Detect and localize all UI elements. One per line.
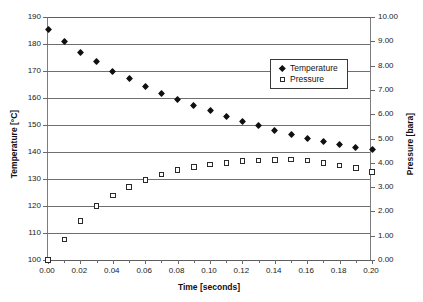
legend-label-temperature: Temperature	[290, 63, 338, 74]
legend-label-pressure: Pressure	[290, 74, 324, 85]
y-tick-label-left: 160	[13, 93, 41, 102]
x-tick-minor	[291, 260, 292, 263]
data-point-pressure	[240, 158, 245, 163]
data-point-pressure	[45, 257, 50, 262]
y-tick-left	[43, 44, 48, 45]
y-tick-label-left: 190	[13, 12, 41, 21]
y-tick-label-left: 140	[13, 147, 41, 156]
x-tick-major	[178, 260, 179, 264]
x-tick-label: 0.18	[324, 266, 354, 275]
x-tick-label: 0.20	[356, 266, 386, 275]
x-tick-minor	[194, 260, 195, 263]
y-tick-right	[370, 163, 375, 164]
x-tick-minor	[226, 260, 227, 263]
data-point-temperature	[255, 122, 262, 129]
y-tick-left	[43, 233, 48, 234]
y-tick-label-left: 180	[13, 39, 41, 48]
y-tick-right	[370, 114, 375, 115]
y-tick-label-right: 8.00	[378, 61, 408, 70]
y-tick-label-right: 9.00	[378, 36, 408, 45]
data-point-temperature	[320, 138, 327, 145]
data-point-pressure	[126, 184, 131, 189]
x-tick-label: 0.14	[259, 266, 289, 275]
x-tick-major	[340, 260, 341, 264]
y-tick-label-left: 130	[13, 174, 41, 183]
y-tick-right	[370, 66, 375, 67]
x-tick-minor	[356, 260, 357, 263]
y-tick-right	[370, 41, 375, 42]
y-tick-label-right: 0.00	[378, 255, 408, 264]
legend-item-temperature: Temperature	[277, 63, 338, 74]
x-tick-major	[113, 260, 114, 264]
x-tick-label: 0.04	[97, 266, 127, 275]
data-point-temperature	[77, 49, 84, 56]
gridline	[48, 179, 370, 180]
y-tick-label-right: 6.00	[378, 109, 408, 118]
y-tick-left	[43, 206, 48, 207]
data-point-pressure	[207, 162, 212, 167]
data-point-temperature	[109, 67, 116, 74]
x-tick-minor	[161, 260, 162, 263]
gridline	[48, 125, 370, 126]
x-tick-minor	[259, 260, 260, 263]
data-point-temperature	[271, 127, 278, 134]
x-tick-label: 0.00	[32, 266, 62, 275]
y-tick-label-right: 5.00	[378, 134, 408, 143]
y-tick-label-left: 100	[13, 255, 41, 264]
y-tick-right	[370, 17, 375, 18]
y-tick-left	[43, 179, 48, 180]
x-tick-label: 0.06	[129, 266, 159, 275]
data-point-temperature	[174, 96, 181, 103]
y-tick-right	[370, 211, 375, 212]
y-tick-right	[370, 90, 375, 91]
data-point-temperature	[206, 107, 213, 114]
y-tick-label-right: 10.00	[378, 12, 408, 21]
data-point-pressure	[272, 157, 277, 162]
x-axis-title: Time [seconds]	[47, 282, 371, 292]
x-tick-major	[210, 260, 211, 264]
data-point-temperature	[93, 58, 100, 65]
data-point-pressure	[321, 160, 326, 165]
data-point-temperature	[352, 144, 359, 151]
x-tick-major	[80, 260, 81, 264]
x-tick-minor	[129, 260, 130, 263]
x-tick-label: 0.16	[291, 266, 321, 275]
data-point-pressure	[288, 157, 293, 162]
gridline	[48, 233, 370, 234]
chart-legend: Temperature Pressure	[270, 59, 348, 89]
plot-area: Temperature Pressure	[47, 17, 371, 260]
x-tick-major	[275, 260, 276, 264]
gridline	[48, 152, 370, 153]
gridline	[48, 44, 370, 45]
x-tick-minor	[323, 260, 324, 263]
x-tick-label: 0.12	[226, 266, 256, 275]
y-tick-label-right: 7.00	[378, 85, 408, 94]
gridline	[48, 17, 370, 18]
data-point-temperature	[44, 26, 51, 33]
y-tick-label-right: 4.00	[378, 158, 408, 167]
y-tick-label-right: 3.00	[378, 182, 408, 191]
data-point-temperature	[223, 113, 230, 120]
data-point-pressure	[110, 193, 115, 198]
y-tick-left	[43, 125, 48, 126]
y-tick-label-right: 1.00	[378, 231, 408, 240]
data-point-pressure	[305, 158, 310, 163]
y-tick-left	[43, 17, 48, 18]
y-tick-right	[370, 139, 375, 140]
x-tick-minor	[64, 260, 65, 263]
x-tick-major	[307, 260, 308, 264]
chart-figure: Temperature [°C] Pressure [bara] Time [s…	[0, 0, 423, 302]
data-point-pressure	[62, 237, 67, 242]
data-point-pressure	[353, 165, 358, 170]
x-tick-major	[145, 260, 146, 264]
data-point-pressure	[94, 203, 99, 208]
data-point-pressure	[337, 163, 342, 168]
data-point-pressure	[224, 160, 229, 165]
data-point-temperature	[336, 141, 343, 148]
y-tick-label-left: 170	[13, 66, 41, 75]
y-tick-right	[370, 236, 375, 237]
data-point-temperature	[125, 75, 132, 82]
legend-item-pressure: Pressure	[277, 74, 338, 85]
open-square-icon	[277, 77, 287, 82]
data-point-pressure	[159, 172, 164, 177]
